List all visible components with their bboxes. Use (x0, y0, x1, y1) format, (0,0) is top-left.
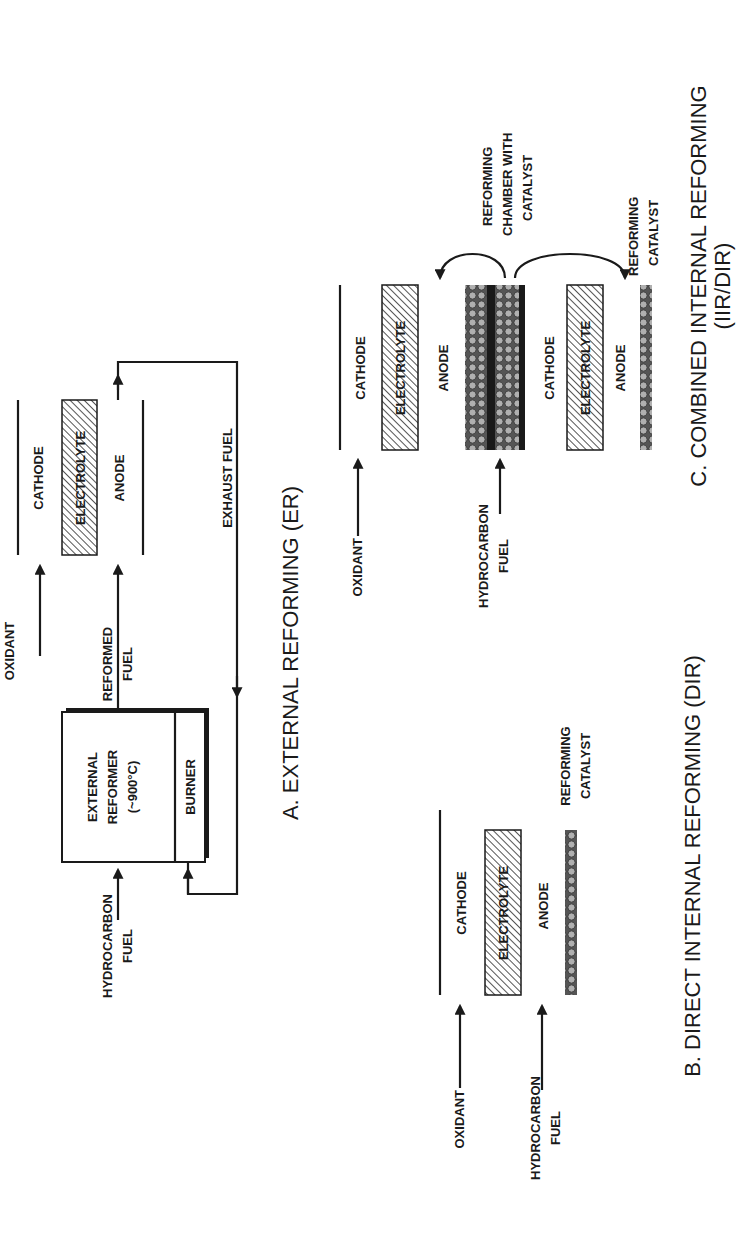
catalyst-label-1: REFORMING (558, 726, 573, 805)
hc-fuel-label-2: FUEL (496, 539, 511, 573)
cathode-label: CATHODE (454, 871, 469, 935)
reformer-label-1: EXTERNAL (85, 752, 100, 822)
panel-b-direct-internal-reforming: CATHODE ELECTROLYTE ANODE OXIDANT HYDROC… (440, 655, 705, 1180)
hc-fuel-label-1: HYDROCARBON (476, 504, 491, 608)
electrolyte-label: ELECTROLYTE (73, 431, 88, 525)
catalyst-label-2: CATALYST (578, 733, 593, 799)
hc-fuel-label-1: HYDROCARBON (100, 894, 115, 998)
hc-fuel-label-2: FUEL (120, 929, 135, 963)
reforming-catalyst-layer (565, 830, 577, 995)
panel-a-external-reforming: CATHODE ELECTROLYTE ANODE OXIDANT REFORM… (2, 362, 303, 998)
chamber-label-2: CHAMBER WITH (500, 133, 515, 236)
cathode-label-2: CATHODE (542, 336, 557, 400)
panel-a-title: A. EXTERNAL REFORMING (ER) (278, 486, 303, 820)
cathode-label-1: CATHODE (353, 336, 368, 400)
oxidant-label: OXIDANT (452, 1090, 467, 1149)
hc-fuel-label-1: HYDROCARBON (528, 1076, 543, 1180)
fuel-cell-reforming-diagram: CATHODE ELECTROLYTE ANODE OXIDANT REFORM… (0, 0, 755, 1236)
cathode-label: CATHODE (31, 446, 46, 510)
reformed-fuel-label-2: FUEL (120, 647, 135, 681)
oxidant-label: OXIDANT (2, 622, 17, 681)
chamber-wall (487, 285, 495, 450)
anode-label-2: ANODE (613, 344, 628, 391)
panel-c-title-1: C. COMBINED INTERNAL REFORMING (686, 85, 711, 486)
exhaust-fuel-label: EXHAUST FUEL (220, 428, 235, 528)
chamber-label-3: CATALYST (520, 155, 535, 221)
burner-label: BURNER (183, 759, 198, 815)
curved-arrow-to-anode-1 (440, 254, 505, 278)
anode-label: ANODE (112, 454, 127, 501)
hc-fuel-label-2: FUEL (548, 1111, 563, 1145)
chamber-label-1: REFORMING (480, 147, 495, 226)
reforming-chamber (495, 285, 519, 450)
reformed-fuel-label-1: REFORMED (100, 627, 115, 701)
chamber-wall (519, 285, 525, 450)
panel-c-combined-internal-reforming: CATHODE ELECTROLYTE ANODE CATHODE ELECTR… (340, 85, 735, 608)
oxidant-label: OXIDANT (350, 538, 365, 597)
anode-label: ANODE (536, 882, 551, 929)
electrolyte-label-2: ELECTROLYTE (578, 321, 593, 415)
anode-label-1: ANODE (436, 344, 451, 391)
electrolyte-label-1: ELECTROLYTE (393, 321, 408, 415)
reformer-label-3: (~900°C) (125, 761, 140, 814)
anode-catalyst-layer (465, 285, 487, 450)
reforming-catalyst-layer (640, 285, 652, 450)
curved-arrow-to-anode-2 (515, 254, 625, 278)
panel-c-title-2: (IIR/DIR) (710, 243, 735, 330)
catalyst-label-2: CATALYST (646, 200, 661, 266)
electrolyte-label: ELECTROLYTE (496, 866, 511, 960)
reformer-label-2: REFORMER (105, 749, 120, 824)
panel-b-title: B. DIRECT INTERNAL REFORMING (DIR) (680, 655, 705, 1077)
catalyst-label-1: REFORMING (626, 197, 641, 276)
